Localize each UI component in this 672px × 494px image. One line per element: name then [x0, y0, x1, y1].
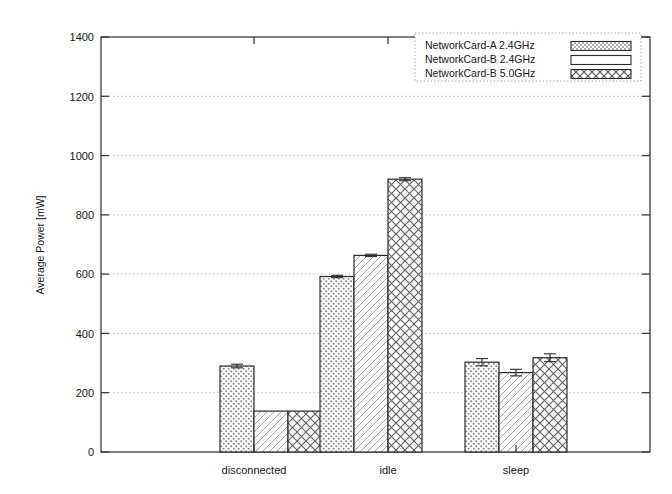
x-tick-label-idle: idle — [379, 464, 396, 476]
bar-idle-networkcard-b-50 — [388, 179, 422, 452]
legend-label-2: NetworkCard-B 5.0GHz — [425, 67, 535, 79]
x-tick-label-sleep: sleep — [503, 464, 529, 476]
bar-disconnected-networkcard-b-50 — [288, 411, 322, 452]
y-tick-label: 600 — [76, 268, 94, 280]
y-tick-label: 1000 — [70, 150, 94, 162]
stipple-swatch-icon — [571, 42, 631, 51]
y-tick-label: 1400 — [70, 31, 94, 43]
diagonal-hatch-swatch-icon — [571, 56, 631, 65]
bar-disconnected-networkcard-a-24 — [220, 366, 254, 452]
y-tick-label: 400 — [76, 328, 94, 340]
legend-label-1: NetworkCard-B 2.4GHz — [425, 53, 535, 65]
bar-sleep-networkcard-b-24 — [499, 373, 533, 452]
bar-sleep-networkcard-a-24 — [465, 362, 499, 452]
y-tick-label: 200 — [76, 387, 94, 399]
y-axis-title: Average Power [mW] — [34, 195, 46, 294]
bar-idle-networkcard-a-24 — [320, 277, 354, 453]
x-tick-label-disconnected: disconnected — [222, 464, 287, 476]
y-tick-label: 800 — [76, 209, 94, 221]
bar-disconnected-networkcard-b-24 — [254, 411, 288, 452]
y-tick-label: 0 — [88, 446, 94, 458]
legend: NetworkCard-A 2.4GHz NetworkCard-B 2.4GH… — [415, 33, 641, 81]
bar-idle-networkcard-b-24 — [354, 255, 388, 452]
chart-figure: 1400 1200 1000 800 600 400 200 0 Average… — [0, 0, 672, 494]
bar-sleep-networkcard-b-50 — [533, 358, 567, 452]
bar-chart-svg: 1400 1200 1000 800 600 400 200 0 Average… — [0, 0, 672, 494]
y-tick-label: 1200 — [70, 91, 94, 103]
legend-label-0: NetworkCard-A 2.4GHz — [425, 39, 535, 51]
cross-hatch-swatch-icon — [571, 70, 631, 79]
